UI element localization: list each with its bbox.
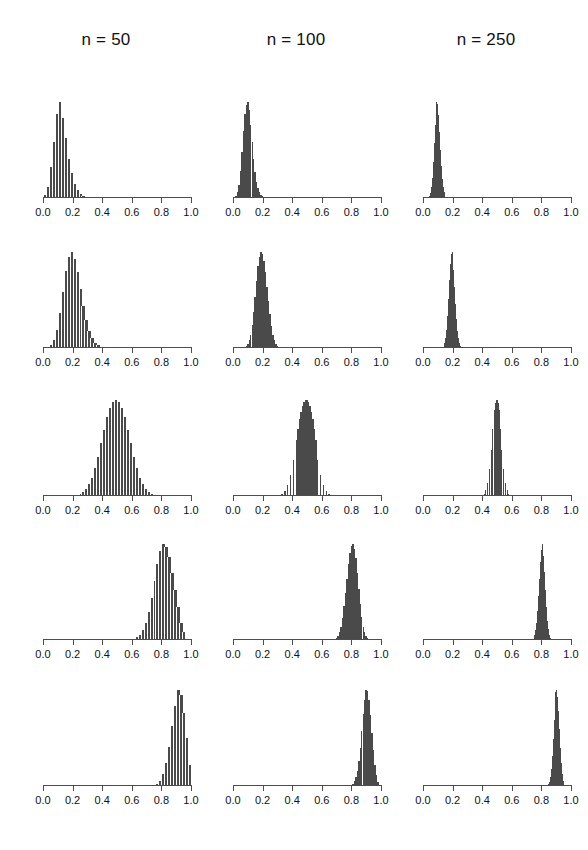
- x-axis-tick: [351, 348, 352, 353]
- x-axis-tick-label: 0.6: [117, 648, 147, 660]
- x-axis-tick: [263, 496, 264, 501]
- x-axis-tick-label: 0.0: [218, 794, 248, 806]
- histogram-panel-r2-c2: 0.00.20.40.60.81.0: [391, 378, 581, 518]
- histogram-panel-r0-c1: 0.00.20.40.60.81.0: [201, 80, 391, 220]
- x-axis-tick-label: 1.0: [556, 206, 586, 218]
- x-axis-tick-label: 0.2: [248, 648, 278, 660]
- x-axis-tick-label: 0.2: [58, 794, 88, 806]
- histogram-panel-r4-c2: 0.00.20.40.60.81.0: [391, 668, 581, 808]
- x-axis-tick: [73, 640, 74, 645]
- x-axis-line: [43, 347, 192, 348]
- x-axis-tick: [381, 348, 382, 353]
- x-axis-tick-label: 0.8: [146, 794, 176, 806]
- x-axis-tick-label: 0.8: [336, 648, 366, 660]
- histogram-bars: [233, 400, 381, 496]
- x-axis-tick: [132, 640, 133, 645]
- histogram-bar: [320, 475, 321, 496]
- column-header-n250: n = 250: [391, 30, 581, 50]
- histogram-bars: [233, 252, 381, 348]
- x-axis-tick-label: 0.6: [117, 794, 147, 806]
- histogram-bars: [43, 252, 191, 348]
- x-axis-tick: [541, 496, 542, 501]
- x-axis-tick: [571, 198, 572, 203]
- x-axis-tick: [132, 348, 133, 353]
- x-axis-tick-label: 0.4: [87, 504, 117, 516]
- x-axis-tick: [423, 198, 424, 203]
- x-axis-tick-label: 0.0: [218, 504, 248, 516]
- x-axis-tick-label: 0.0: [28, 794, 58, 806]
- x-axis-tick: [102, 348, 103, 353]
- x-axis-tick: [512, 786, 513, 791]
- x-axis-tick-label: 0.6: [497, 648, 527, 660]
- x-axis-line: [43, 197, 192, 198]
- x-axis-line: [233, 785, 382, 786]
- x-axis-tick: [191, 348, 192, 353]
- histogram-bar: [188, 765, 192, 786]
- histogram-bar: [290, 475, 291, 496]
- x-axis-tick-label: 0.4: [87, 206, 117, 218]
- plot-area: [233, 102, 381, 198]
- x-axis-tick: [233, 348, 234, 353]
- histogram-bar: [501, 450, 502, 496]
- x-axis-tick: [381, 640, 382, 645]
- x-axis-tick: [233, 198, 234, 203]
- x-axis-tick-label: 0.6: [307, 504, 337, 516]
- x-axis-tick: [423, 496, 424, 501]
- x-axis-tick-label: 0.8: [526, 206, 556, 218]
- x-axis-tick: [191, 496, 192, 501]
- x-axis-tick-label: 0.2: [438, 206, 468, 218]
- x-axis-tick: [132, 786, 133, 791]
- x-axis-tick: [453, 348, 454, 353]
- x-axis-tick-label: 0.0: [408, 794, 438, 806]
- x-axis-tick-label: 0.2: [58, 206, 88, 218]
- x-axis-tick-label: 0.4: [467, 648, 497, 660]
- x-axis-tick-label: 0.2: [438, 648, 468, 660]
- plot-area: [43, 252, 191, 348]
- histogram-bars: [423, 102, 571, 198]
- x-axis-tick: [191, 786, 192, 791]
- x-axis-tick-label: 0.4: [467, 356, 497, 368]
- x-axis-tick-label: 0.8: [146, 356, 176, 368]
- x-axis-tick: [571, 640, 572, 645]
- x-axis-tick-label: 0.0: [408, 206, 438, 218]
- histogram-panel-r3-c2: 0.00.20.40.60.81.0: [391, 522, 581, 662]
- x-axis-tick: [482, 786, 483, 791]
- x-axis-tick-label: 0.6: [117, 206, 147, 218]
- x-axis-tick-label: 0.2: [248, 504, 278, 516]
- x-axis-tick: [423, 348, 424, 353]
- x-axis-tick: [43, 496, 44, 501]
- x-axis-tick: [191, 198, 192, 203]
- x-axis-tick: [161, 198, 162, 203]
- histogram-panel-r0-c2: 0.00.20.40.60.81.0: [391, 80, 581, 220]
- plot-area: [423, 252, 571, 348]
- plot-area: [423, 102, 571, 198]
- x-axis-tick-label: 0.8: [336, 794, 366, 806]
- x-axis-tick: [292, 348, 293, 353]
- histogram-panel-r0-c0: 0.00.20.40.60.81.0: [11, 80, 201, 220]
- x-axis-line: [43, 495, 192, 496]
- x-axis-tick: [263, 640, 264, 645]
- x-axis-tick: [322, 786, 323, 791]
- x-axis-tick: [482, 348, 483, 353]
- x-axis-tick-label: 0.4: [277, 504, 307, 516]
- x-axis-tick: [453, 786, 454, 791]
- x-axis-tick: [43, 640, 44, 645]
- x-axis-tick: [292, 496, 293, 501]
- column-header-row: n = 50 n = 100 n = 250: [0, 30, 588, 58]
- histogram-bar: [492, 429, 493, 496]
- plot-area: [423, 690, 571, 786]
- x-axis-tick-label: 0.8: [336, 356, 366, 368]
- x-axis-tick-label: 0.2: [248, 206, 278, 218]
- plot-area: [43, 400, 191, 496]
- plot-area: [233, 544, 381, 640]
- x-axis-tick: [292, 198, 293, 203]
- x-axis-tick-label: 0.2: [248, 356, 278, 368]
- x-axis-line: [423, 197, 572, 198]
- x-axis-tick: [43, 198, 44, 203]
- histogram-bars: [43, 400, 191, 496]
- x-axis-tick: [233, 640, 234, 645]
- histogram-bar: [505, 483, 506, 496]
- x-axis-tick: [541, 786, 542, 791]
- x-axis-tick-label: 0.6: [307, 648, 337, 660]
- x-axis-tick: [453, 640, 454, 645]
